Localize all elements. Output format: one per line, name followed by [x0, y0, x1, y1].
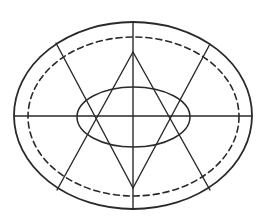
star-line-4 — [133, 52, 210, 190]
star-line-3 — [57, 52, 133, 190]
ellipse-star-diagram — [0, 0, 262, 217]
